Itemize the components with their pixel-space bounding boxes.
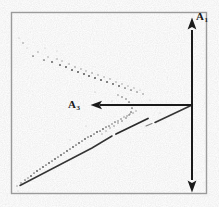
axis-label-a3: A3 — [68, 99, 80, 112]
axis-label-a1-subscript: 1 — [204, 16, 208, 24]
axis-label-a1-symbol: A — [196, 10, 204, 22]
axis-label-a3-subscript: 3 — [76, 104, 80, 112]
figure-root: A1 A3 — [0, 0, 219, 207]
scan-noise-layer — [0, 0, 219, 207]
figure-canvas — [0, 0, 219, 207]
axis-label-a3-symbol: A — [68, 98, 76, 110]
axis-label-a1: A1 — [196, 11, 208, 24]
